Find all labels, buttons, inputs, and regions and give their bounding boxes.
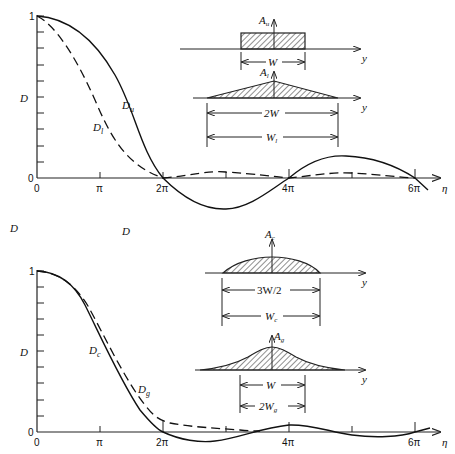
- x-tick-6pi: 6π: [408, 183, 421, 194]
- y-tick-1: 1: [29, 11, 35, 22]
- x-tick-2pi: 2π: [156, 183, 169, 194]
- x-ticks: [100, 169, 415, 178]
- series-d-g: [37, 271, 260, 431]
- inset-axis-y2: y: [361, 101, 367, 113]
- y-tick-1-b: 1: [29, 266, 35, 277]
- inset-amp-a-g: Ag: [273, 330, 285, 344]
- label-d-u: Du: [121, 99, 134, 114]
- inset-amp-a-u: Au: [258, 14, 270, 28]
- stray-label-center: D: [121, 225, 130, 237]
- inset-axis-y4: y: [361, 373, 367, 385]
- x-axis-label-2: η: [442, 436, 447, 448]
- label-d-g: Dg: [137, 383, 150, 398]
- x-tick-pi-b: π: [96, 437, 103, 448]
- label-d-l: Dl: [92, 121, 104, 136]
- inset-axis-y: y: [361, 52, 367, 64]
- inset-width-w: W: [268, 56, 278, 68]
- inset-width-wc: Wc: [265, 310, 278, 324]
- x-axis-label: η: [442, 182, 447, 194]
- inset-width-2wg: 2Wg: [259, 400, 278, 414]
- inset-triangle: Al y 2W Wl: [193, 66, 367, 147]
- series-d-c: [37, 271, 430, 442]
- x-ticks-2: [100, 420, 415, 432]
- label-d-c: Dc: [88, 344, 101, 359]
- inset-cosine: Ac y 3W/2 Wc: [205, 228, 367, 326]
- x-tick-0: 0: [34, 183, 40, 194]
- x-tick-2pi-b: 2π: [156, 437, 169, 448]
- x-tick-pi: π: [96, 183, 103, 194]
- chart-bottom: 1 0 0 π 2π 4π 6π η D Dc Dg Ac y 3W/2 Wc: [19, 228, 447, 448]
- chart-top: 1 0 0 π 2π 4π 6π η D Du Dl Au y W: [19, 11, 447, 209]
- x-tick-6pi-b: 6π: [408, 437, 421, 448]
- stray-label-left: D: [9, 222, 18, 234]
- y-axis-label: D: [19, 92, 28, 104]
- inset-width-wl: Wl: [266, 131, 277, 145]
- inset-amp-a-l: Al: [259, 66, 269, 80]
- inset-base-3w2: 3W/2: [257, 284, 281, 296]
- inset-amp-a-c: Ac: [264, 228, 276, 242]
- inset-rectangle: Au y W: [180, 14, 367, 70]
- inset-base-w: W: [266, 379, 276, 391]
- x-tick-4pi: 4π: [282, 183, 295, 194]
- y-ticks: [37, 16, 44, 162]
- inset-base-2w: 2W: [264, 107, 280, 119]
- y-ticks-2: [37, 271, 44, 416]
- figure: 1 0 0 π 2π 4π 6π η D Du Dl Au y W: [0, 0, 455, 454]
- y-axis-label-2: D: [19, 346, 28, 358]
- inset-axis-y3: y: [361, 276, 367, 288]
- x-tick-4pi-b: 4π: [282, 437, 295, 448]
- inset-gaussian: Ag y W 2Wg: [195, 330, 367, 414]
- x-tick-0-b: 0: [34, 437, 40, 448]
